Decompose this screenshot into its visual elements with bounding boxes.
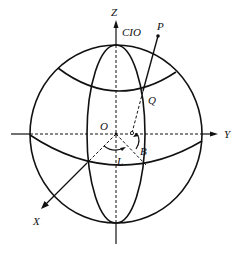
geodetic-diagram: Z CIO P Q O Y X L B (0, 0, 237, 260)
label-l: L (116, 155, 123, 167)
point-p-dot (156, 34, 160, 38)
label-z: Z (111, 6, 118, 18)
label-q: Q (148, 94, 156, 106)
label-y: Y (224, 128, 232, 140)
label-p: P (156, 20, 164, 32)
longitude-arrow-icon (120, 147, 126, 151)
y-arrow-icon (210, 132, 218, 137)
label-b: B (140, 145, 147, 157)
z-arrow-icon (114, 20, 119, 28)
normal-foot-circle (130, 131, 133, 134)
normal-line-dashed (132, 91, 143, 133)
label-cio: CIO (122, 26, 141, 38)
upper-parallel (58, 68, 176, 91)
label-o: O (100, 120, 108, 132)
origin-dot (115, 133, 118, 136)
x-axis-solid (46, 163, 87, 204)
label-x: X (32, 215, 41, 227)
x-axis-dashed (87, 134, 116, 163)
